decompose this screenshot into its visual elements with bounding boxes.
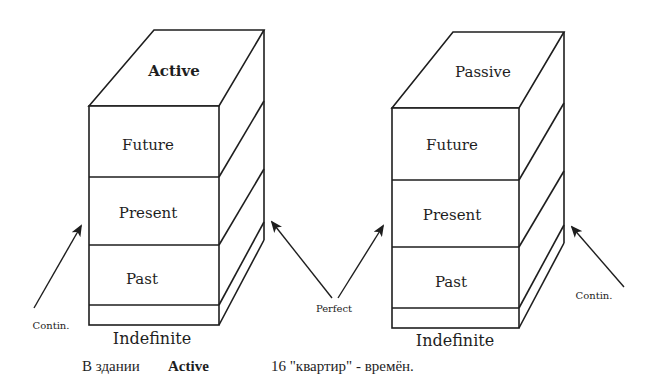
floor-label-past-passive: Past <box>435 273 467 291</box>
caption-rest: 16 "квартир" - времён. <box>271 358 414 375</box>
roof-label-passive: Passive <box>455 63 511 81</box>
arrow-perfect-to-passive <box>338 226 383 298</box>
caption-bold-word: Active <box>168 358 209 375</box>
base-label-active: Indefinite <box>113 329 191 348</box>
base-label-passive: Indefinite <box>416 331 494 350</box>
arrow-label-contin-left: Contin. <box>33 320 70 331</box>
arrow-label-perfect: Perfect <box>316 303 352 314</box>
floor-label-past-active: Past <box>126 270 158 288</box>
tense-building-diagram: Active Future Present Past Indefinite Co… <box>0 0 651 390</box>
floor-label-present-passive: Present <box>423 206 481 224</box>
caption: В здании Active 16 "квартир" - времён. <box>0 358 651 382</box>
caption-prefix: В здании <box>82 358 140 375</box>
arrow-contin-left <box>34 226 81 308</box>
arrow-perfect-to-active <box>272 222 332 298</box>
arrow-contin-right <box>572 227 624 287</box>
floor-label-future-passive: Future <box>426 136 478 154</box>
diagram-canvas: Active Future Present Past Indefinite Co… <box>0 0 651 390</box>
floor-label-present-active: Present <box>119 204 177 222</box>
roof-label-active: Active <box>147 62 200 80</box>
arrow-label-contin-right: Contin. <box>576 290 613 301</box>
floor-label-future-active: Future <box>122 136 174 154</box>
